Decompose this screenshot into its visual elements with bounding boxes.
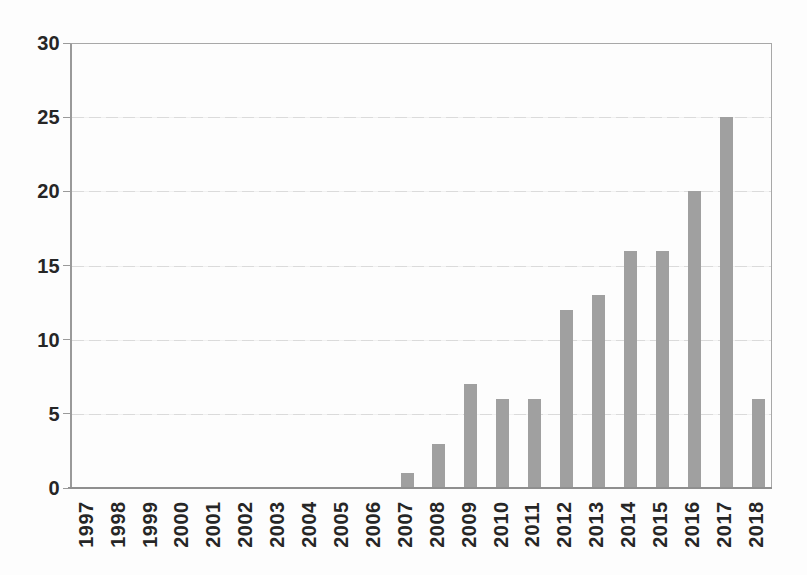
- x-axis-label-2017: 2017: [708, 492, 740, 556]
- gridline-25: [72, 117, 771, 118]
- x-axis-label-2008: 2008: [421, 492, 453, 556]
- x-axis-label-1998: 1998: [102, 492, 134, 556]
- bar-2008: [432, 444, 445, 489]
- x-axis-label-2011: 2011: [517, 492, 549, 556]
- y-axis-tick-10: [63, 339, 70, 340]
- y-axis-tick-15: [63, 265, 70, 266]
- y-axis-tick-25: [63, 117, 70, 118]
- y-axis-tick-20: [63, 191, 70, 192]
- x-axis-label-2010: 2010: [485, 492, 517, 556]
- gridline-20: [72, 191, 771, 192]
- x-axis-label-2001: 2001: [198, 492, 230, 556]
- y-axis-label-5: 5: [0, 403, 60, 425]
- bar-2014: [624, 251, 637, 488]
- x-axis-label-2013: 2013: [581, 492, 613, 556]
- x-axis-label-2003: 2003: [261, 492, 293, 556]
- bar-2016: [688, 191, 701, 488]
- y-axis-tick-30: [63, 43, 70, 44]
- y-axis-label-10: 10: [0, 329, 60, 351]
- bar-2009: [464, 384, 477, 488]
- x-axis-label-2016: 2016: [676, 492, 708, 556]
- y-axis-label-0: 0: [0, 477, 60, 499]
- plot-area: [70, 43, 772, 488]
- bar-2011: [528, 399, 541, 488]
- x-axis: 1997199819992000200120022003200420052006…: [70, 492, 772, 556]
- bar-2010: [496, 399, 509, 488]
- x-axis-label-2015: 2015: [644, 492, 676, 556]
- y-axis-label-15: 15: [0, 255, 60, 277]
- x-axis-label-2009: 2009: [453, 492, 485, 556]
- x-axis-label-2018: 2018: [740, 492, 772, 556]
- y-axis-label-30: 30: [0, 32, 60, 54]
- x-axis-line: [68, 487, 772, 489]
- scanned-bar-chart-figure: 051015202530 199719981999200020012002200…: [0, 0, 807, 575]
- bar-2012: [560, 310, 573, 488]
- bar-2007: [401, 473, 414, 488]
- x-axis-label-1997: 1997: [70, 492, 102, 556]
- y-axis: 051015202530: [0, 0, 62, 575]
- y-axis-label-20: 20: [0, 180, 60, 202]
- x-axis-label-2014: 2014: [612, 492, 644, 556]
- bar-2017: [720, 117, 733, 488]
- bar-2018: [752, 399, 765, 488]
- y-axis-label-25: 25: [0, 106, 60, 128]
- y-axis-tick-0: [63, 488, 70, 489]
- bar-2013: [592, 295, 605, 488]
- x-axis-label-2004: 2004: [293, 492, 325, 556]
- x-axis-label-1999: 1999: [134, 492, 166, 556]
- y-axis-tick-5: [63, 413, 70, 414]
- x-axis-label-2005: 2005: [325, 492, 357, 556]
- x-axis-label-2012: 2012: [549, 492, 581, 556]
- x-axis-label-2000: 2000: [166, 492, 198, 556]
- x-axis-label-2007: 2007: [389, 492, 421, 556]
- bar-2015: [656, 251, 669, 488]
- x-axis-label-2006: 2006: [357, 492, 389, 556]
- x-axis-label-2002: 2002: [230, 492, 262, 556]
